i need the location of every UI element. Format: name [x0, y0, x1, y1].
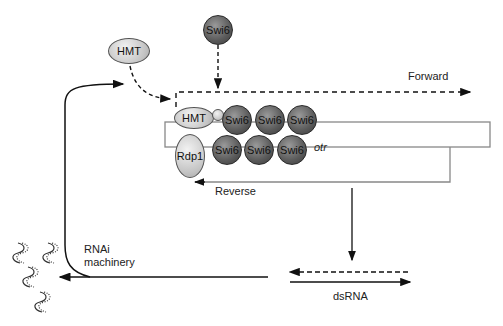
swi6-bottom-3: Swi6: [277, 135, 307, 165]
reverse-label: Reverse: [215, 185, 256, 197]
otr-label: otr: [314, 141, 327, 153]
forward-dashed-arrow: [176, 92, 470, 107]
rdp1-node: Rdp1: [175, 134, 205, 178]
rnai-label-line2: machinery: [84, 256, 135, 268]
swi6-bottom-1: Swi6: [212, 135, 242, 165]
swi6-top-2: Swi6: [255, 105, 285, 135]
dsrna-label: dsRNA: [333, 290, 368, 302]
swi6-top-1: Swi6: [222, 105, 252, 135]
hmt-recruit-arrow: [130, 66, 170, 99]
swi6-bottom-2: Swi6: [244, 135, 274, 165]
swi6-free-node: Swi6: [203, 15, 233, 45]
forward-label: Forward: [408, 70, 448, 82]
swi6-top-3: Swi6: [287, 105, 317, 135]
hmt-free-node: HMT: [108, 38, 150, 64]
sirna-icons: [13, 243, 58, 312]
hmt-bound-node: HMT: [174, 107, 214, 129]
rnai-label-line1: RNAi: [84, 243, 110, 255]
